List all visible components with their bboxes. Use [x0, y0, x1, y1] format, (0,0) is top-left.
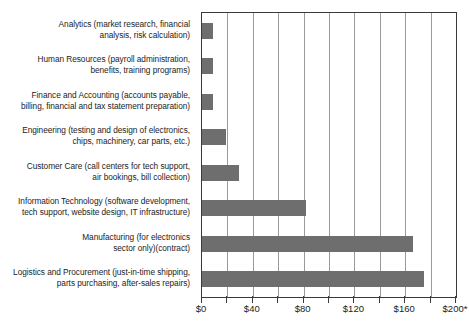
plot-area	[201, 12, 457, 298]
x-axis-tick	[430, 296, 431, 303]
x-axis-tick-label: $200*	[443, 303, 468, 314]
category-label: Engineering (testing and design of elect…	[0, 119, 196, 155]
bar-slot	[202, 262, 456, 298]
x-axis-tick	[455, 296, 456, 303]
bar	[202, 165, 239, 181]
x-axis-tick	[226, 296, 227, 303]
x-axis-tick	[252, 296, 253, 303]
bar-slot	[202, 49, 456, 85]
bar	[202, 129, 226, 145]
category-label: Human Resources (payroll administration,…	[0, 48, 196, 84]
x-axis-tick-label: $0	[196, 303, 207, 314]
bar-slot	[202, 226, 456, 262]
x-axis-tick	[303, 296, 304, 303]
x-axis-tick	[379, 296, 380, 303]
x-axis-tick-label: $80	[295, 303, 311, 314]
x-axis-tick-label: $40	[244, 303, 260, 314]
x-axis-tick-label: $160	[394, 303, 415, 314]
bar	[202, 236, 413, 252]
x-axis-tick	[201, 296, 202, 303]
category-label: Manufacturing (for electronics sector on…	[0, 225, 196, 261]
category-label: Customer Care (call centers for tech sup…	[0, 154, 196, 190]
bar	[202, 58, 213, 74]
bar-slot	[202, 13, 456, 49]
bar-chart: Analytics (market research, financial an…	[0, 0, 469, 334]
bar-slot	[202, 84, 456, 120]
x-axis-tick	[404, 296, 405, 303]
category-label: Finance and Accounting (accounts payable…	[0, 83, 196, 119]
bar-slot	[202, 120, 456, 156]
x-axis-tick-label: $120	[343, 303, 364, 314]
x-axis-tick	[277, 296, 278, 303]
x-axis-tick-labels: $0$40$80$120$160$200*	[0, 303, 469, 319]
x-axis-tick	[328, 296, 329, 303]
bar-slot	[202, 155, 456, 191]
bar	[202, 23, 213, 39]
x-axis-tick	[353, 296, 354, 303]
category-label: Logistics and Procurement (just-in-time …	[0, 261, 196, 297]
bar-series	[202, 13, 456, 297]
category-label-column: Analytics (market research, financial an…	[0, 12, 196, 296]
bar	[202, 200, 306, 216]
bar	[202, 271, 424, 287]
bar	[202, 94, 213, 110]
category-label: Analytics (market research, financial an…	[0, 12, 196, 48]
bar-slot	[202, 191, 456, 227]
category-label: Information Technology (software develop…	[0, 190, 196, 226]
